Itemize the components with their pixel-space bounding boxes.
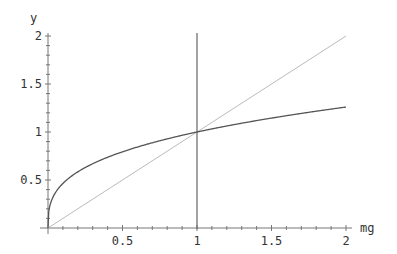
y-tick-label: 2: [35, 29, 42, 43]
x-tick-label: 0.5: [112, 234, 134, 248]
y-tick-label: 1.5: [20, 77, 42, 91]
y-axis-label: y: [30, 11, 37, 25]
x-tick-label: 1: [193, 234, 200, 248]
x-axis-label: mg: [360, 221, 374, 235]
chart: 0.511.520.511.52 mg y: [0, 0, 397, 254]
y-tick-label: 0.5: [20, 173, 42, 187]
x-tick-label: 1.5: [261, 234, 283, 248]
y-tick-label: 1: [35, 125, 42, 139]
x-tick-label: 2: [342, 234, 349, 248]
